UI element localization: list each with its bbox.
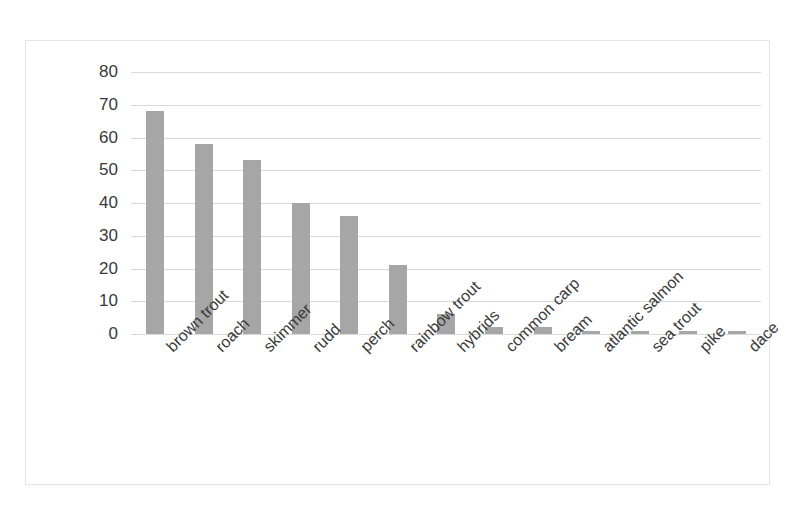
y-axis-tick-label: 30 xyxy=(99,226,118,246)
y-axis-tick-label: 40 xyxy=(99,193,118,213)
x-axis: brown troutroachskimmerruddperchrainbow … xyxy=(131,337,761,477)
y-axis: 80706050403020100 xyxy=(26,72,118,334)
y-axis-tick-label: 70 xyxy=(99,95,118,115)
chart-frame: 80706050403020100 brown troutroachskimme… xyxy=(25,40,770,485)
y-axis-tick-label: 60 xyxy=(99,128,118,148)
bar xyxy=(728,331,746,334)
bar xyxy=(340,216,358,334)
y-axis-tick-label: 0 xyxy=(109,324,118,344)
bar xyxy=(243,160,261,334)
y-axis-tick-label: 80 xyxy=(99,62,118,82)
y-axis-tick-label: 10 xyxy=(99,291,118,311)
bar xyxy=(146,111,164,334)
y-axis-tick-label: 50 xyxy=(99,160,118,180)
y-axis-tick-label: 20 xyxy=(99,259,118,279)
